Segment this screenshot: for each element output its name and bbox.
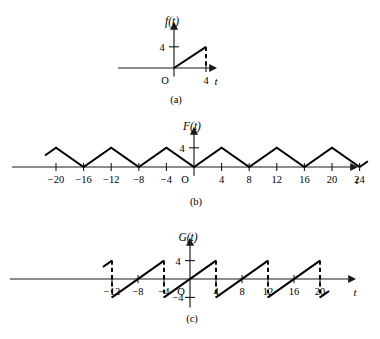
- x-tick-label: 20: [327, 174, 338, 185]
- waveform: [45, 148, 368, 167]
- x-tick-label: 8: [247, 174, 252, 185]
- x-tick-label: 16: [299, 174, 310, 185]
- x-tick-label: −4: [161, 174, 173, 185]
- x-tick-label: −20: [48, 174, 64, 185]
- y-tick-label: 4: [175, 256, 181, 267]
- three-panel-waveform-figure: 44Of(t)t(a) −20−16−12−8−448121620244OF(t…: [0, 0, 380, 339]
- x-tick-label: 12: [272, 174, 283, 185]
- origin-label: O: [161, 75, 169, 86]
- function-label: G(t): [178, 231, 197, 244]
- x-tick-label: −12: [103, 174, 119, 185]
- x-tick-label: −8: [132, 286, 143, 297]
- panel-caption: (b): [190, 196, 203, 208]
- function-label: F(t): [182, 120, 201, 133]
- waveform-segment: [103, 261, 112, 267]
- figure-container: 44Of(t)t(a) −20−16−12−8−448121620244OF(t…: [0, 0, 380, 339]
- x-tick-label: 4: [203, 75, 209, 86]
- panel-caption: (a): [170, 94, 182, 106]
- x-axis-label: t: [353, 286, 357, 298]
- function-label: f(t): [165, 15, 179, 28]
- y-tick-label: 4: [159, 42, 165, 53]
- panel-c: −12−8−4481216204−4OG(t)t(c): [10, 231, 357, 325]
- waveform: [174, 47, 206, 68]
- x-axis-label: t: [214, 75, 218, 87]
- x-tick-label: 16: [289, 286, 300, 297]
- x-tick-label: 4: [219, 174, 225, 185]
- panel-a: 44Of(t)t(a): [118, 15, 218, 106]
- y-tick-label: 4: [179, 143, 185, 154]
- panel-b: −20−16−12−8−448121620244OF(t)t(b): [12, 120, 368, 208]
- origin-label: O: [181, 174, 189, 185]
- x-tick-label: 8: [239, 286, 244, 297]
- x-tick-label: −8: [133, 174, 144, 185]
- x-tick-label: −16: [75, 174, 91, 185]
- panel-caption: (c): [186, 313, 198, 325]
